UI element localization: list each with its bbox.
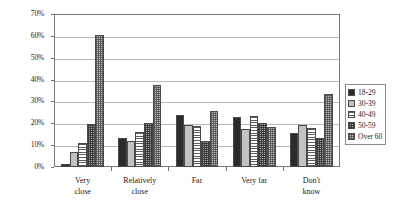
legend-swatch-icon — [348, 133, 355, 140]
y-axis: 0%10%20%30%40%50%60%70% — [0, 0, 52, 214]
x-axis-category-label: Very close — [54, 176, 111, 197]
x-axis-category-label: Far — [168, 176, 225, 187]
bar-50-59 — [201, 141, 210, 167]
bar-group — [233, 14, 276, 167]
legend-label: 18-29 — [358, 89, 376, 97]
bar-18-29 — [290, 133, 299, 167]
x-axis-category-label: Very far — [226, 176, 283, 187]
legend-item[interactable]: 30-39 — [348, 98, 382, 109]
bar-30-39 — [241, 129, 250, 167]
legend-swatch-icon — [348, 89, 355, 96]
y-axis-tick-label: 10% — [31, 141, 44, 149]
legend-item[interactable]: 18-29 — [348, 87, 382, 98]
bars-layer — [54, 14, 340, 167]
bar-over-60 — [210, 111, 219, 167]
bar-30-39 — [70, 152, 79, 167]
x-axis-tick-mark — [226, 167, 227, 171]
bar-over-60 — [95, 35, 104, 167]
bar-50-59 — [258, 123, 267, 167]
y-axis-tick-label: 70% — [31, 10, 44, 18]
x-axis-category-label: Don't know — [283, 176, 340, 197]
legend-label: 40-49 — [358, 111, 376, 119]
x-axis-tick-mark — [168, 167, 169, 171]
y-axis-tick-label: 0% — [34, 163, 44, 171]
bar-over-60 — [324, 94, 333, 167]
bar-18-29 — [233, 117, 242, 167]
bar-30-39 — [184, 125, 193, 167]
bar-18-29 — [176, 115, 185, 167]
bar-40-49 — [250, 116, 259, 167]
bar-group — [176, 14, 219, 167]
bar-50-59 — [316, 138, 325, 167]
x-axis-category-label: Relatively close — [111, 176, 168, 197]
y-axis-tick-label: 60% — [31, 32, 44, 40]
bar-over-60 — [267, 127, 276, 167]
bar-40-49 — [193, 126, 202, 167]
bar-18-29 — [118, 138, 127, 168]
legend-item[interactable]: 50-59 — [348, 120, 382, 131]
bar-group — [61, 14, 104, 167]
bar-40-49 — [78, 143, 87, 167]
bar-50-59 — [144, 123, 153, 167]
legend-swatch-icon — [348, 111, 355, 118]
chart-legend: 18-2930-3940-4950-59Over 60 — [345, 84, 386, 145]
bar-30-39 — [127, 141, 136, 167]
bar-chart: 0%10%20%30%40%50%60%70% Very closeRelati… — [0, 0, 403, 214]
y-axis-tick-label: 50% — [31, 54, 44, 62]
y-axis-tick-label: 20% — [31, 119, 44, 127]
legend-label: 50-59 — [358, 122, 376, 130]
y-axis-tick-mark — [51, 167, 54, 168]
bar-group — [290, 14, 333, 167]
bar-40-49 — [307, 128, 316, 167]
bar-18-29 — [61, 164, 70, 167]
legend-item[interactable]: 40-49 — [348, 109, 382, 120]
legend-label: 30-39 — [358, 100, 376, 108]
bar-over-60 — [153, 85, 162, 167]
x-axis-tick-mark — [283, 167, 284, 171]
bar-group — [118, 14, 161, 167]
legend-label: Over 60 — [358, 133, 382, 141]
y-axis-tick-label: 40% — [31, 76, 44, 84]
bar-30-39 — [298, 125, 307, 167]
x-axis-tick-mark — [111, 167, 112, 171]
bar-50-59 — [87, 124, 96, 167]
y-axis-tick-label: 30% — [31, 97, 44, 105]
bar-40-49 — [135, 132, 144, 167]
legend-swatch-icon — [348, 100, 355, 107]
legend-item[interactable]: Over 60 — [348, 131, 382, 142]
legend-swatch-icon — [348, 122, 355, 129]
